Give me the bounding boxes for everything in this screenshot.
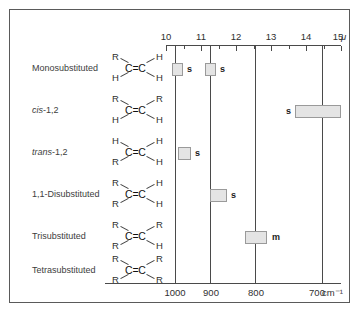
top-tick-12	[236, 46, 237, 51]
formula-atom-top-right: R	[156, 220, 163, 230]
formula-bond-bottom-right	[146, 72, 154, 77]
formula-atom-top-right: H	[156, 52, 163, 62]
formula-trans-1-2: H H R H C=C	[110, 136, 170, 168]
formula-bond-bottom-right	[146, 156, 154, 161]
formula-atom-bottom-left: R	[112, 157, 119, 167]
row-label-trisubstituted: Trisubstituted	[32, 231, 86, 241]
gridline-900	[210, 45, 211, 283]
formula-atom-bottom-right: H	[156, 73, 163, 83]
row-label-trans-prefix: trans	[32, 147, 52, 157]
band-trans-1-2	[178, 147, 191, 160]
top-tick-label-14: 14	[296, 31, 316, 42]
top-tick-label-11: 11	[191, 31, 211, 42]
formula-atom-top-left: R	[112, 220, 119, 230]
formula-atom-bottom-left: R	[112, 199, 119, 209]
formula-atom-top-left: R	[112, 94, 119, 104]
formula-bond-top-right	[146, 100, 154, 105]
plot-area: 10 11 12 13 14 15 μ 1000 900 800 700 cm⁻…	[10, 10, 349, 302]
top-tick-11-5	[219, 46, 220, 49]
formula-core: C=C	[125, 147, 146, 158]
top-axis-unit-text: μ	[341, 31, 346, 42]
formula-core: C=C	[125, 189, 146, 200]
formula-core: C=C	[125, 105, 146, 116]
gridline-800	[255, 45, 256, 283]
formula-atom-bottom-right: H	[156, 115, 163, 125]
formula-bond-bottom-right	[146, 240, 154, 245]
formula-atom-bottom-left: H	[112, 73, 119, 83]
formula-atom-top-right: R	[156, 254, 163, 264]
bottom-tick-label-800: 800	[241, 287, 271, 298]
formula-atom-bottom-left: R	[112, 241, 119, 251]
band-label-cis-1-2: s	[286, 105, 291, 118]
row-label-monosubstituted: Monosubstituted	[32, 63, 98, 73]
row-label-trans-1-2: trans-1,2	[32, 147, 68, 157]
top-tick-label-10: 10	[156, 31, 176, 42]
band-label-1-1-disubstituted: s	[231, 189, 236, 202]
top-tick-14	[306, 46, 307, 51]
top-tick-label-13: 13	[261, 31, 281, 42]
formula-bond-bottom-right	[146, 274, 154, 279]
gridline-1000	[175, 45, 176, 283]
row-label-1-1-disubstituted: 1,1-Disubstituted	[32, 189, 100, 199]
top-tick-10	[166, 46, 167, 51]
formula-bond-top-right	[146, 58, 154, 63]
band-label-monosubstituted-1: s	[187, 63, 192, 76]
formula-bond-bottom-right	[146, 198, 154, 203]
top-tick-15	[341, 46, 342, 51]
formula-atom-bottom-right: H	[156, 199, 163, 209]
formula-atom-bottom-right: H	[156, 241, 163, 251]
band-trisubstituted	[245, 231, 267, 244]
formula-atom-bottom-right: H	[156, 157, 163, 167]
formula-atom-top-left: R	[112, 254, 119, 264]
row-label-cis-prefix: cis	[32, 105, 43, 115]
formula-bond-bottom-right	[146, 114, 154, 119]
formula-monosubstituted: R H H H C=C	[110, 52, 170, 84]
formula-1-1-disubstituted: R H R H C=C	[110, 178, 170, 210]
top-tick-13	[271, 46, 272, 51]
formula-bond-top-right	[146, 142, 154, 147]
formula-bond-top-right	[146, 226, 154, 231]
row-label-tetrasubstituted: Tetrasubstituted	[32, 265, 96, 275]
formula-atom-top-left: R	[112, 52, 119, 62]
formula-atom-top-left: H	[112, 136, 119, 146]
bottom-tick-label-900: 900	[196, 287, 226, 298]
top-tick-14-5	[324, 46, 325, 49]
top-axis-unit: μ	[341, 31, 346, 42]
bottom-axis-unit: cm⁻¹	[322, 287, 343, 298]
band-label-trisubstituted: m	[272, 231, 280, 244]
formula-atom-bottom-left: R	[112, 275, 119, 285]
gridline-700	[322, 45, 323, 283]
formula-atom-top-right: H	[156, 136, 163, 146]
formula-core: C=C	[125, 63, 146, 74]
bottom-tick-label-1000: 1000	[160, 287, 190, 298]
formula-atom-top-right: R	[156, 94, 163, 104]
row-label-cis-1-2: cis-1,2	[32, 105, 59, 115]
band-label-monosubstituted-2: s	[220, 63, 225, 76]
band-cis-1-2	[295, 105, 341, 118]
formula-atom-top-left: R	[112, 178, 119, 188]
formula-atom-bottom-right: R	[156, 275, 163, 285]
band-monosubstituted-2	[205, 63, 216, 76]
row-label-trans-suffix: -1,2	[52, 147, 68, 157]
formula-trisubstituted: R R R H C=C	[110, 220, 170, 252]
formula-core: C=C	[125, 265, 146, 276]
top-tick-label-12: 12	[226, 31, 246, 42]
formula-bond-top-right	[146, 184, 154, 189]
top-tick-11	[201, 46, 202, 51]
formula-atom-bottom-left: H	[112, 115, 119, 125]
band-1-1-disubstituted	[210, 189, 227, 202]
top-tick-10-5	[184, 46, 185, 49]
formula-bond-top-right	[146, 260, 154, 265]
formula-atom-top-right: H	[156, 178, 163, 188]
band-monosubstituted-1	[172, 63, 183, 76]
formula-cis-1-2: R R H H C=C	[110, 94, 170, 126]
row-label-cis-suffix: -1,2	[43, 105, 59, 115]
formula-core: C=C	[125, 231, 146, 242]
top-tick-13-5	[289, 46, 290, 49]
formula-tetrasubstituted: R R R R C=C	[110, 254, 170, 286]
band-label-trans-1-2: s	[195, 147, 200, 160]
ir-correlation-chart: 10 11 12 13 14 15 μ 1000 900 800 700 cm⁻…	[9, 9, 350, 303]
